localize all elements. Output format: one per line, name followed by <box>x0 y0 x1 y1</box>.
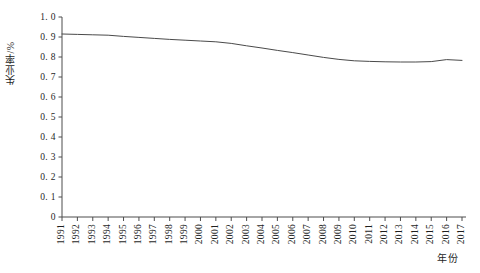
y-axis-ticks <box>59 17 63 217</box>
x-axis-ticks <box>62 217 462 221</box>
unemployment-rate-line-chart: 失业率/% 1. 00. 90. 80. 70. 60. 50. 40. 30.… <box>0 0 480 273</box>
axis-lines <box>62 17 466 217</box>
plot-area <box>0 0 480 273</box>
data-series-line <box>62 34 462 62</box>
